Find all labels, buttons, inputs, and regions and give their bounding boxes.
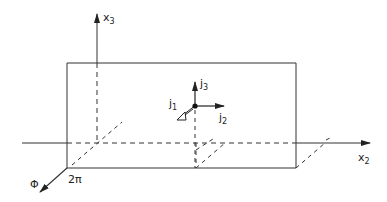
x2-label: x2 — [358, 151, 370, 166]
dashed-diagonals — [72, 110, 330, 168]
phi-label: Φ — [30, 178, 39, 191]
phi-axis — [40, 168, 67, 192]
two-pi-tick-label: 2π — [68, 173, 82, 186]
x3-label: x3 — [103, 11, 115, 26]
j1-label: j1 — [168, 97, 177, 112]
diagram-canvas: x3 x2 Φ 2π j3 j2 j1 — [0, 0, 387, 202]
j2-label: j2 — [218, 111, 227, 126]
j3-label: j3 — [199, 77, 208, 92]
